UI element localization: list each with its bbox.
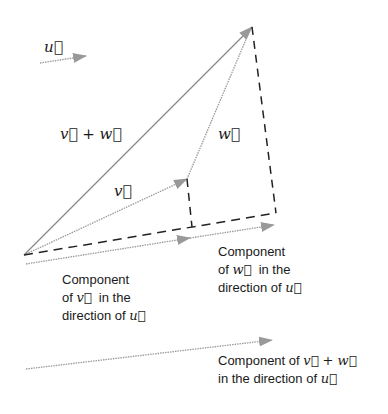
component-v-label: Component of v⃗ in the direction of u⃗ <box>62 271 145 325</box>
text-line: of w⃗ in the <box>218 261 301 279</box>
projection-line-v <box>187 179 192 227</box>
text-line: Component <box>218 243 301 261</box>
text-line: Component <box>62 271 145 289</box>
u-arrow <box>40 56 86 63</box>
component-v-plus-w-label: Component of v⃗ + w⃗ in the direction of… <box>218 352 357 388</box>
component-v-arrow <box>26 238 190 264</box>
component-w-label: Component of w⃗ in the direction of u⃗ <box>218 243 301 297</box>
projection-line-v-plus-w <box>252 27 276 213</box>
component-w-arrow <box>190 225 274 238</box>
text-line: direction of u⃗ <box>218 279 301 297</box>
v-arrow <box>24 179 187 255</box>
text-line: in the direction of u⃗ <box>218 370 357 388</box>
label-v-plus-w: v⃗ + w⃗ <box>60 125 121 143</box>
w-arrow <box>187 30 250 179</box>
vector-projection-diagram: u⃗ v⃗ + w⃗ w⃗ v⃗ Component of v⃗ in the … <box>0 0 388 414</box>
text-line: of v⃗ in the <box>62 289 145 307</box>
text-line: Component of v⃗ + w⃗ <box>218 352 357 370</box>
label-u: u⃗ <box>44 38 63 56</box>
label-w: w⃗ <box>218 125 240 143</box>
text-line: direction of u⃗ <box>62 307 145 325</box>
label-v: v⃗ <box>114 182 131 200</box>
